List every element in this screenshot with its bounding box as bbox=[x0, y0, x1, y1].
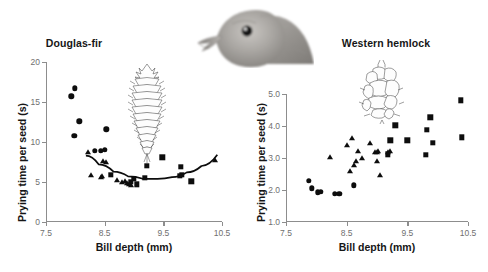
data-point-square bbox=[423, 152, 428, 157]
x-tick-label-left: 7.5 bbox=[40, 228, 52, 238]
data-point-square bbox=[459, 134, 464, 139]
data-point-circle bbox=[71, 133, 76, 138]
data-point-circle bbox=[337, 191, 342, 196]
y-tick-label-left: 10 bbox=[31, 137, 40, 147]
data-point-circle bbox=[69, 94, 74, 99]
x-tick-left bbox=[46, 222, 47, 226]
data-point-square bbox=[177, 173, 182, 178]
douglas-fir-cone-illustration bbox=[120, 61, 174, 165]
data-point-triangle bbox=[359, 155, 365, 160]
y-tick-label-right: 4.0 bbox=[268, 121, 280, 131]
data-point-triangle bbox=[99, 174, 105, 179]
figure-root: Douglas-fir Bill depth (mm) Prying time … bbox=[0, 0, 488, 272]
x-tick-label-left: 8.5 bbox=[99, 228, 111, 238]
data-point-circle bbox=[318, 189, 323, 194]
y-tick-label-right: 5.0 bbox=[268, 89, 280, 99]
x-tick-label-right: 10.5 bbox=[460, 228, 477, 238]
y-tick-label-right: 3.0 bbox=[268, 153, 280, 163]
y-tick-right bbox=[282, 126, 286, 127]
data-point-square bbox=[385, 151, 390, 156]
y-tick-label-left: 15 bbox=[31, 97, 40, 107]
y-tick-right bbox=[282, 158, 286, 159]
x-tick-right bbox=[286, 222, 287, 226]
data-point-square bbox=[424, 127, 429, 132]
y-tick-label-left: 20 bbox=[31, 57, 40, 67]
data-point-triangle bbox=[344, 142, 350, 147]
data-point-circle bbox=[72, 86, 77, 91]
data-point-triangle bbox=[349, 135, 355, 140]
data-point-square bbox=[189, 178, 194, 183]
y-axis-title-right: Prying time per seed (s) bbox=[255, 103, 267, 222]
data-point-circle bbox=[102, 147, 107, 152]
data-point-triangle bbox=[377, 172, 383, 177]
x-tick-label-right: 7.5 bbox=[280, 228, 292, 238]
data-point-triangle bbox=[88, 172, 94, 177]
panel-title-douglas-fir: Douglas-fir bbox=[0, 37, 196, 49]
y-tick-right bbox=[282, 94, 286, 95]
data-point-triangle bbox=[367, 140, 373, 145]
data-point-circle bbox=[306, 178, 311, 183]
x-tick-left bbox=[222, 222, 223, 226]
x-tick-label-left: 10.5 bbox=[214, 228, 231, 238]
x-axis-line-left bbox=[46, 221, 222, 222]
data-point-square bbox=[458, 98, 463, 103]
data-point-square bbox=[405, 138, 410, 143]
x-tick-right bbox=[407, 222, 408, 226]
data-point-square bbox=[108, 172, 113, 177]
y-tick-left bbox=[42, 102, 46, 103]
y-tick-label-right: 2.0 bbox=[268, 185, 280, 195]
data-point-square bbox=[134, 182, 139, 187]
y-axis-title-left: Prying time per seed (s) bbox=[16, 103, 28, 222]
crossbill-head-photo bbox=[186, 0, 314, 68]
data-point-square bbox=[178, 164, 183, 169]
data-point-circle bbox=[104, 126, 109, 131]
data-point-circle bbox=[77, 118, 82, 123]
y-tick-left bbox=[42, 62, 46, 63]
data-point-triangle bbox=[327, 155, 333, 160]
x-axis-title-left: Bill depth (mm) bbox=[96, 241, 172, 253]
data-point-triangle bbox=[103, 159, 109, 164]
data-point-triangle bbox=[351, 162, 357, 167]
data-point-triangle bbox=[374, 158, 380, 163]
x-tick-left bbox=[163, 222, 164, 226]
data-point-circle bbox=[92, 148, 97, 153]
data-point-triangle bbox=[355, 148, 361, 153]
data-point-triangle bbox=[85, 150, 91, 155]
data-point-square bbox=[388, 138, 393, 143]
x-tick-label-left: 9.5 bbox=[157, 228, 169, 238]
y-tick-left bbox=[42, 142, 46, 143]
y-axis-line-right bbox=[286, 94, 287, 222]
data-point-triangle bbox=[347, 168, 353, 173]
x-tick-left bbox=[105, 222, 106, 226]
x-tick-label-right: 9.5 bbox=[401, 228, 413, 238]
data-point-square bbox=[428, 115, 433, 120]
data-point-square bbox=[131, 176, 136, 181]
x-axis-title-right: Bill depth (mm) bbox=[339, 241, 415, 253]
x-tick-label-right: 8.5 bbox=[341, 228, 353, 238]
y-tick-left bbox=[42, 182, 46, 183]
x-tick-right bbox=[468, 222, 469, 226]
x-tick-right bbox=[347, 222, 348, 226]
y-tick-label-left: 5 bbox=[35, 177, 40, 187]
y-tick-right bbox=[282, 190, 286, 191]
western-hemlock-cone-illustration bbox=[356, 58, 408, 124]
data-point-square bbox=[142, 175, 147, 180]
data-point-square bbox=[430, 140, 435, 145]
data-point-triangle bbox=[375, 148, 381, 153]
y-tick-label-left: 0 bbox=[35, 217, 40, 227]
y-tick-label-right: 1.0 bbox=[268, 217, 280, 227]
data-point-circle bbox=[351, 182, 356, 187]
data-point-triangle bbox=[212, 157, 218, 162]
x-axis-line-right bbox=[286, 221, 468, 222]
data-point-triangle bbox=[122, 178, 128, 183]
y-axis-line-left bbox=[46, 62, 47, 222]
